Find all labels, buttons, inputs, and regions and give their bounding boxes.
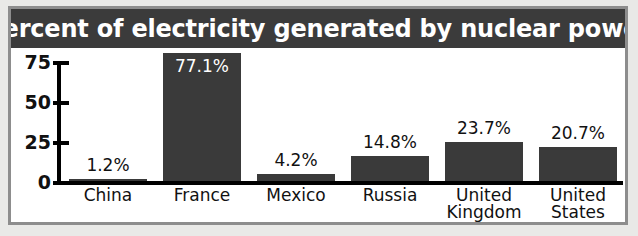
x-label-united-states: United States	[531, 187, 625, 222]
bar-slot-mexico: 4.2%	[249, 48, 343, 181]
bar-russia[interactable]	[351, 156, 430, 181]
bar-china[interactable]	[69, 179, 148, 181]
x-label-mexico-line1: Mexico	[249, 187, 343, 204]
bar-slot-united-kingdom: 23.7%	[437, 48, 531, 181]
chart-figure: Percent of electricity generated by nucl…	[0, 0, 638, 236]
x-label-china: China	[61, 187, 155, 204]
bar-value-france: 77.1%	[155, 56, 249, 76]
y-tick-label-75-wrap: 75	[11, 53, 51, 73]
y-tick-label-0-wrap: 0	[11, 173, 51, 193]
y-tick-label-50-wrap: 50	[11, 93, 51, 113]
bar-group: 1.2% 77.1% 4.2% 14.8% 23.7% 20.7%	[61, 48, 623, 185]
bar-united-states[interactable]	[539, 147, 618, 181]
y-tick-label-75: 75	[17, 53, 51, 72]
y-tick-label-0: 0	[17, 173, 51, 192]
y-tick-label-25-wrap: 25	[11, 133, 51, 153]
bar-value-russia: 14.8%	[343, 132, 437, 152]
y-tick-label-25: 25	[17, 133, 51, 152]
y-tick-label-50: 50	[17, 93, 51, 112]
bar-mexico[interactable]	[257, 174, 336, 181]
chart-title: Percent of electricity generated by nucl…	[11, 15, 625, 43]
bar-value-united-kingdom: 23.7%	[437, 118, 531, 138]
x-label-united-kingdom: United Kingdom	[437, 187, 531, 222]
x-label-united-states-line2: States	[531, 204, 625, 221]
x-label-russia: Russia	[343, 187, 437, 204]
bar-slot-russia: 14.8%	[343, 48, 437, 181]
x-label-china-line1: China	[61, 187, 155, 204]
bar-value-china: 1.2%	[61, 155, 155, 175]
chart-title-bar: Percent of electricity generated by nucl…	[11, 9, 625, 48]
bar-slot-china: 1.2%	[61, 48, 155, 181]
x-label-france-line1: France	[155, 187, 249, 204]
plot-area: 75 50 25 0 1.2% 77.1% 4.2%	[11, 48, 625, 222]
x-label-france: France	[155, 187, 249, 204]
x-label-united-kingdom-line2: Kingdom	[437, 204, 531, 221]
x-axis-labels: China France Mexico Russia United Kingdo…	[61, 187, 623, 222]
x-label-mexico: Mexico	[249, 187, 343, 204]
x-label-russia-line1: Russia	[343, 187, 437, 204]
bar-value-mexico: 4.2%	[249, 150, 343, 170]
bar-united-kingdom[interactable]	[445, 142, 524, 181]
bar-value-united-states: 20.7%	[531, 123, 625, 143]
bar-slot-united-states: 20.7%	[531, 48, 625, 181]
bar-slot-france: 77.1%	[155, 48, 249, 181]
